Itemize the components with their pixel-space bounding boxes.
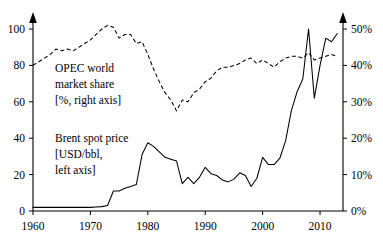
x-axis-tick-labels: 196019701980199020002010 [22,220,332,232]
opec-annotation-line-2: market share [55,78,114,90]
x-tick-label-2010: 2010 [309,220,332,232]
x-tick-label-1960: 1960 [22,220,45,232]
left-tick-20: 20 [14,169,26,181]
x-tick-label-2000: 2000 [251,220,274,232]
right-tick-10: 10% [351,169,373,181]
left-axis-ticks [29,29,33,211]
right-tick-20: 20% [351,132,373,144]
opec-annotation-line-1: OPEC world [55,62,114,74]
left-tick-40: 40 [14,132,26,144]
left-tick-80: 80 [14,59,26,71]
right-tick-50: 50% [351,23,373,35]
left-axis [29,12,37,211]
brent-annotation-line-3: left axis] [55,164,96,176]
brent-annotation-line-1: Brent spot price [55,132,128,145]
series-brent-spot-price [33,29,337,207]
left-tick-60: 60 [14,96,26,108]
left-axis-arrowhead [29,12,37,23]
chart-container: 0 20 40 60 80 100 0% 10% 20% 30% 40% 50% [0,0,383,245]
x-axis-ticks [33,211,320,215]
opec-annotation: OPEC world market share [%, right axis] [55,62,121,107]
left-axis-tick-labels: 0 20 40 60 80 100 [8,23,26,217]
left-tick-0: 0 [19,205,25,217]
right-tick-30: 30% [351,96,373,108]
right-tick-40: 40% [351,59,373,71]
left-tick-100: 100 [8,23,26,35]
x-tick-label-1980: 1980 [136,220,159,232]
right-axis-ticks [343,29,347,211]
opec-annotation-line-3: [%, right axis] [55,94,121,107]
x-tick-label-1990: 1990 [194,220,217,232]
right-axis [339,12,347,211]
x-tick-label-1970: 1970 [79,220,102,232]
right-axis-tick-labels: 0% 10% 20% 30% 40% 50% [351,23,373,217]
right-axis-arrowhead [339,12,347,23]
right-tick-0: 0% [351,205,367,217]
brent-annotation-line-2: [USD/bbl, [55,148,103,161]
brent-annotation: Brent spot price [USD/bbl, left axis] [55,132,128,176]
opec-brent-line-chart: 0 20 40 60 80 100 0% 10% 20% 30% 40% 50% [0,0,383,245]
